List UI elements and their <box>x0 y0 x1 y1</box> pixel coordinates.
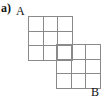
grid-cell <box>72 45 87 60</box>
grid-cell <box>58 17 73 32</box>
lower-right-grid-block <box>56 44 101 89</box>
grid-cell <box>57 60 72 75</box>
grid-cell <box>29 46 44 61</box>
grid-cell <box>29 32 44 47</box>
grid-cell <box>44 17 59 32</box>
grid-cell <box>57 74 72 89</box>
part-label: a) <box>1 2 11 14</box>
grid-cell <box>86 45 101 60</box>
grid-cell <box>57 45 72 60</box>
point-label-a: A <box>16 5 25 17</box>
grid-cell <box>29 17 44 32</box>
grid-cell <box>72 74 87 89</box>
figure-container: a) A B <box>0 0 109 102</box>
point-label-b: B <box>91 86 99 98</box>
grid-cell <box>72 60 87 75</box>
grid-cell <box>86 60 101 75</box>
